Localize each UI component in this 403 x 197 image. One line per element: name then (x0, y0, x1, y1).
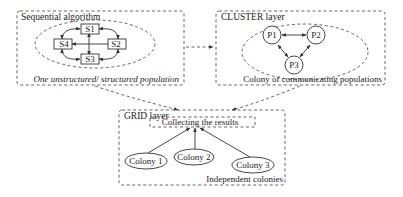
node-s3: S3 (81, 54, 99, 64)
node-p3: P3 (285, 56, 303, 74)
colony-2-label: Colony 2 (177, 152, 210, 162)
node-p2-label: P2 (311, 30, 321, 40)
s3-s4-curve (62, 49, 80, 59)
node-s4: S4 (54, 39, 72, 49)
s4-s1-curve (62, 29, 80, 39)
cluster-panel-title: CLUSTER layer (221, 12, 285, 22)
cluster-to-grid-arrow (232, 86, 300, 110)
grid-panel: GRID layer Collecting the results Colony… (119, 110, 285, 185)
colony1-to-collector-arrow (148, 128, 190, 153)
diagram-canvas: Sequential algorithm S1 S2 S3 S4 One uns… (0, 0, 403, 197)
node-p3-label: P3 (289, 60, 299, 70)
sequential-to-grid-arrow (95, 86, 178, 110)
sequential-panel-caption: One unstructured/ structured population (33, 74, 179, 84)
colony-3: Colony 3 (232, 157, 274, 173)
node-s4-label: S4 (59, 39, 69, 49)
colony-ellipse (242, 24, 368, 80)
colony-3-label: Colony 3 (236, 160, 270, 170)
collector-label: Collecting the results (162, 117, 239, 127)
node-s3-label: S3 (85, 54, 95, 64)
node-p1: P1 (263, 26, 281, 44)
node-s2: S2 (108, 39, 126, 49)
node-s2-label: S2 (111, 39, 121, 49)
node-p2: P2 (307, 26, 325, 44)
p2-p3-arrow (300, 45, 310, 57)
colony-1: Colony 1 (125, 153, 167, 169)
colony-1-label: Colony 1 (129, 156, 162, 166)
cluster-panel: CLUSTER layer P1 P2 P3 Colony of communi… (216, 11, 385, 85)
node-s1-label: S1 (85, 24, 95, 34)
sequential-panel: Sequential algorithm S1 S2 S3 S4 One uns… (17, 11, 184, 85)
s1-s2-curve (99, 29, 118, 39)
cluster-panel-caption: Colony of communicating populations (243, 74, 382, 84)
grid-panel-caption: Independent colonies (206, 174, 283, 184)
node-p1-label: P1 (267, 30, 277, 40)
node-s1: S1 (81, 24, 99, 34)
s2-s3-curve (99, 49, 118, 59)
colony-2: Colony 2 (174, 149, 214, 165)
p1-p3-arrow (278, 45, 288, 57)
